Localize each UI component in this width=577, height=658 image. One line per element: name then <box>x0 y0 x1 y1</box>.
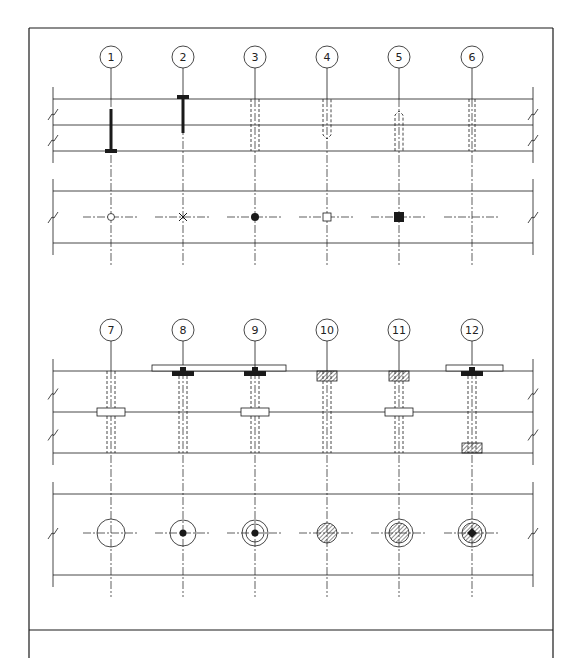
cover-plate <box>152 365 286 371</box>
bottom-symbol-row: 789101112 <box>48 319 538 597</box>
symbol-column-11: 11 <box>371 319 427 597</box>
bolt-head <box>172 371 194 376</box>
symbol-column-5: 5 <box>371 46 427 265</box>
symbol-number: 2 <box>180 51 187 64</box>
symbol-column-2: 2 <box>155 46 211 265</box>
symbol-column-8: 8 <box>152 319 286 597</box>
symbol-column-7: 7 <box>83 319 139 597</box>
symbol-column-4: 4 <box>299 46 355 265</box>
filled-square-icon <box>394 212 404 222</box>
washer <box>241 408 269 416</box>
bolt-head <box>244 371 266 376</box>
drawing-frame <box>29 28 553 658</box>
hatched-disk-icon <box>317 523 337 543</box>
symbol-number: 6 <box>469 51 476 64</box>
symbol-number: 7 <box>108 324 115 337</box>
hatched-head <box>462 443 482 453</box>
bolt-head-top <box>469 367 475 371</box>
bolt-head <box>177 95 189 99</box>
dot-icon <box>180 530 187 537</box>
symbol-number: 5 <box>396 51 403 64</box>
bolt-head <box>105 149 117 153</box>
symbol-number: 10 <box>320 324 334 337</box>
hatched-head <box>317 371 337 381</box>
symbol-column-10: 10 <box>299 319 355 597</box>
washer <box>97 408 125 416</box>
bolt-head-top <box>252 367 258 371</box>
dot-icon <box>252 530 259 537</box>
bolt-head <box>461 371 483 376</box>
open-circle-icon <box>108 214 115 221</box>
bolt-head-top <box>180 367 186 371</box>
symbol-column-12: 12 <box>444 319 503 597</box>
symbol-number: 4 <box>324 51 331 64</box>
top-symbol-row: 123456 <box>48 46 538 265</box>
hatched-head <box>389 371 409 381</box>
filled-dot-icon <box>251 213 259 221</box>
bolt-shank <box>182 99 185 133</box>
symbol-number: 3 <box>252 51 259 64</box>
open-square-icon <box>323 213 331 221</box>
symbol-number: 12 <box>465 324 479 337</box>
symbol-number: 9 <box>252 324 259 337</box>
bolt-shank <box>110 109 113 151</box>
symbol-column-9: 9 <box>227 319 283 597</box>
washer <box>385 408 413 416</box>
symbol-number: 8 <box>180 324 187 337</box>
symbol-number: 11 <box>392 324 406 337</box>
symbol-number: 1 <box>108 51 115 64</box>
symbol-column-1: 1 <box>83 46 139 265</box>
symbol-column-6: 6 <box>444 46 500 265</box>
hatched-disk-icon <box>389 523 409 543</box>
drawing-sheet: 123456 789101112 <box>0 0 577 658</box>
symbol-column-3: 3 <box>227 46 283 265</box>
